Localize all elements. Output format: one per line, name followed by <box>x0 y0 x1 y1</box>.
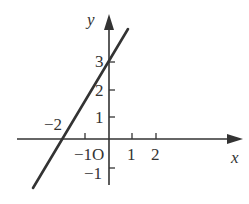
y-axis-arrow-icon <box>104 14 114 30</box>
graph-svg: y x O −2 −1 1 2 3 2 1 −1 <box>0 0 249 204</box>
x-axis-label: x <box>230 148 239 167</box>
plotted-line <box>33 29 128 188</box>
x-axis-arrow-icon <box>227 134 243 144</box>
coordinate-plane: y x O −2 −1 1 2 3 2 1 −1 <box>0 0 249 204</box>
origin-label: O <box>92 145 104 164</box>
y-axis-label: y <box>85 10 95 29</box>
y-tick-label-2: 2 <box>95 81 104 100</box>
x-tick-label-2: 2 <box>151 145 160 164</box>
y-tick-label-neg1: −1 <box>84 164 102 183</box>
x-tick-label-neg1: −1 <box>74 145 92 164</box>
x-tick-label-1: 1 <box>127 145 136 164</box>
y-tick-label-3: 3 <box>95 52 104 71</box>
x-tick-label-neg2: −2 <box>44 115 62 134</box>
y-tick-label-1: 1 <box>95 108 104 127</box>
